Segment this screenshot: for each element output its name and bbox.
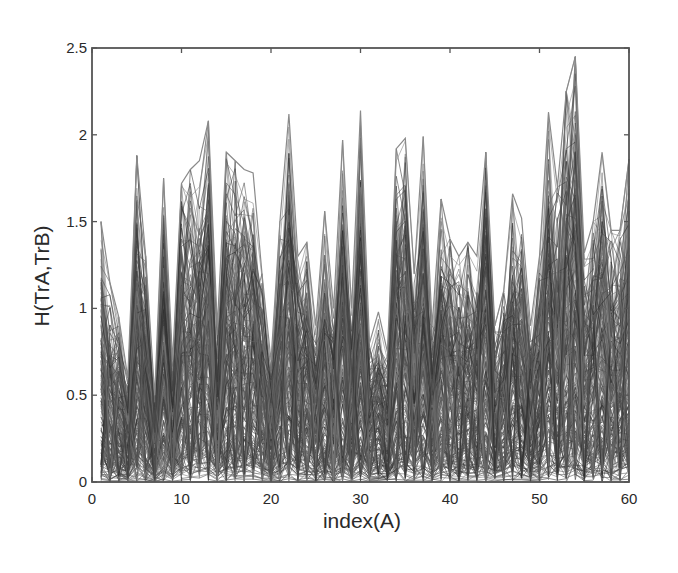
y-tick-label: 1 <box>79 299 87 316</box>
y-tick-label: 2.5 <box>66 39 87 56</box>
y-axis-label: H(TrA,TrB) <box>30 225 53 326</box>
x-axis-label: index(A) <box>323 509 401 532</box>
x-tick-label: 0 <box>88 490 96 507</box>
chart-figure: 0102030405060 00.511.522.5 index(A) H(Tr… <box>0 0 678 573</box>
y-tick-label: 2 <box>79 126 87 143</box>
y-tick-label: 1.5 <box>66 213 87 230</box>
x-tick-label: 50 <box>531 490 548 507</box>
x-tick-label: 30 <box>352 490 369 507</box>
y-tick-label: 0.5 <box>66 386 87 403</box>
x-tick-label: 10 <box>173 490 190 507</box>
y-tick-label: 0 <box>79 473 87 490</box>
x-tick-label: 20 <box>263 490 280 507</box>
x-tick-label: 40 <box>442 490 459 507</box>
x-tick-label: 60 <box>621 490 638 507</box>
